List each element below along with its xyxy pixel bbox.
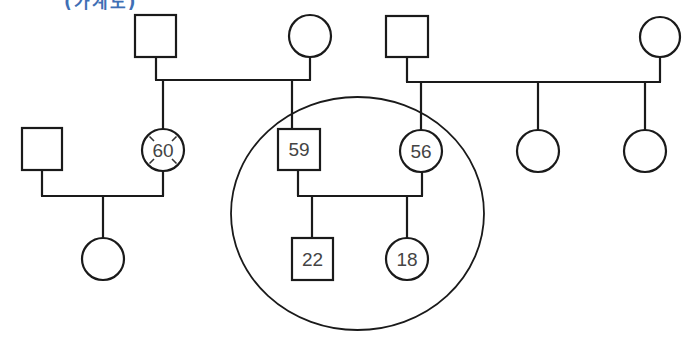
age-label-22: 22 <box>302 249 323 270</box>
female-symbol-g2-sib1 <box>517 130 559 172</box>
female-symbol-deceased-60: 60 <box>142 129 184 171</box>
age-label-59: 59 <box>288 139 309 160</box>
female-symbol-18: 18 <box>386 238 428 280</box>
female-symbol-g2-sib2 <box>624 130 666 172</box>
household-enclosure <box>231 97 484 330</box>
male-symbol-g2-inlaw <box>22 128 62 170</box>
family-center-g2: 59 56 22 18 <box>278 129 442 280</box>
age-label-60: 60 <box>152 140 173 161</box>
male-symbol-g1-m2 <box>386 16 428 57</box>
family-left-g1 <box>135 15 331 129</box>
female-symbol-g1-f1 <box>289 15 331 57</box>
female-symbol-g3-cousin <box>82 238 124 280</box>
female-symbol-g1-f2 <box>640 17 680 57</box>
pedigree-diagram: 60 59 56 22 18 <box>0 0 690 341</box>
family-right-g1 <box>386 16 680 130</box>
age-label-18: 18 <box>396 249 417 270</box>
age-label-56: 56 <box>410 141 431 162</box>
male-symbol-59: 59 <box>278 129 320 170</box>
family-left-g2: 60 <box>22 128 184 280</box>
female-symbol-56: 56 <box>400 130 442 172</box>
male-symbol-g1-m1 <box>135 15 176 57</box>
male-symbol-22: 22 <box>292 238 333 280</box>
